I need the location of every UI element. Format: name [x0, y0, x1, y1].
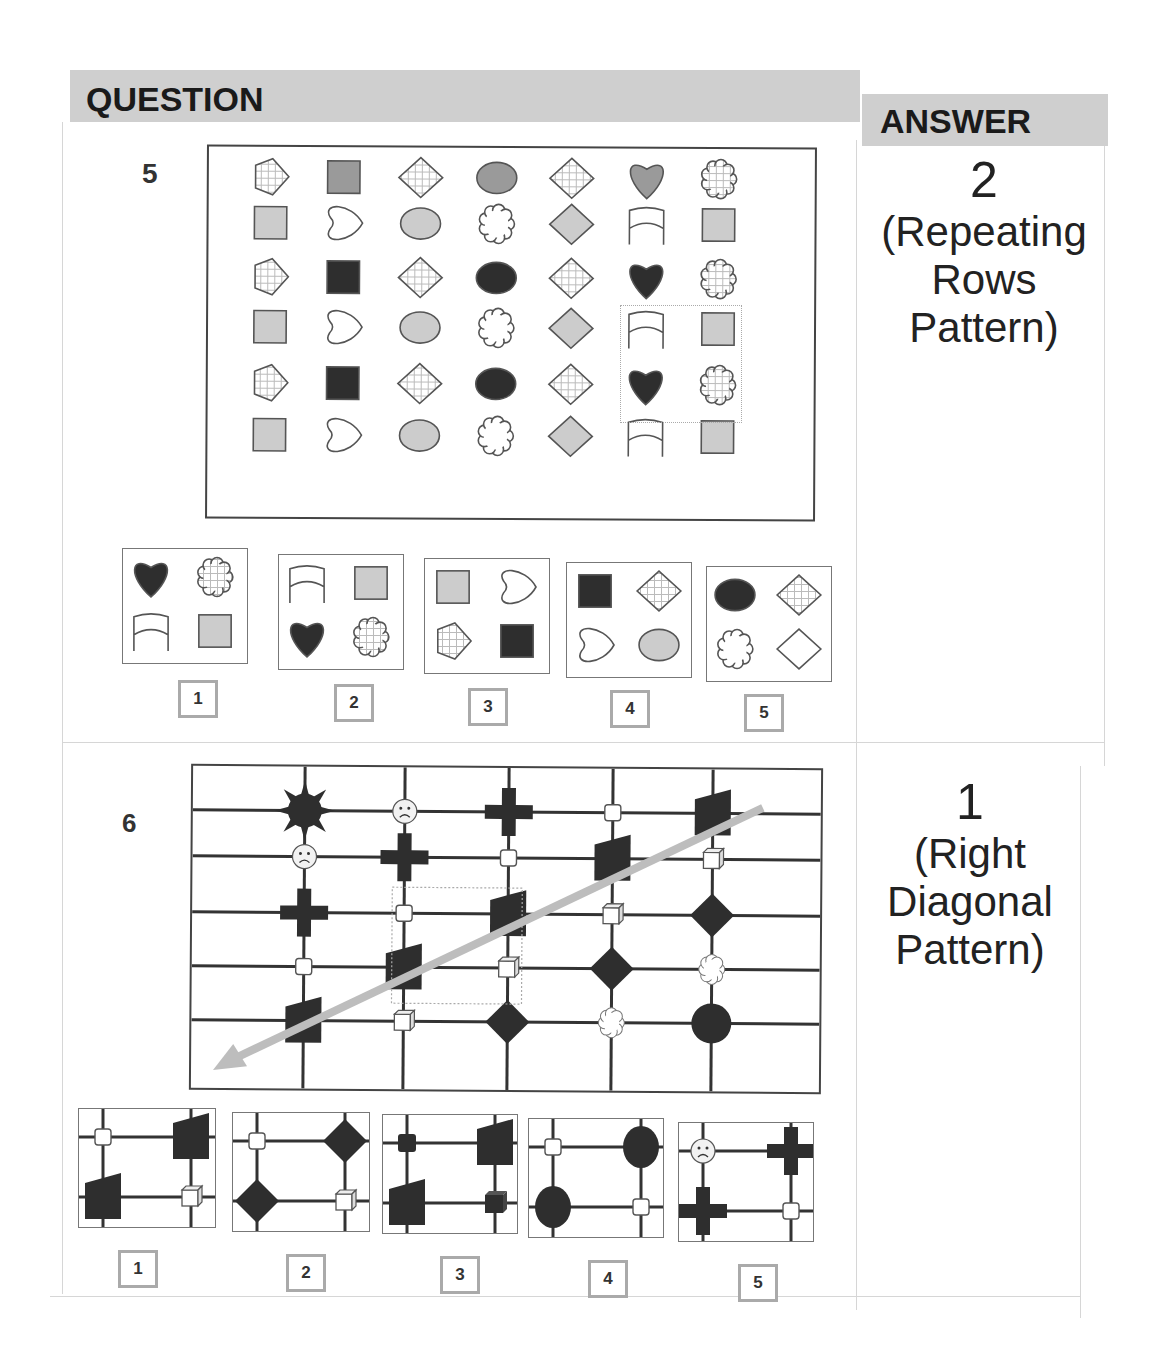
answer-explanation-line: Rows: [866, 256, 1102, 304]
option-symbols: [383, 1115, 517, 1233]
option-shapes: [123, 549, 247, 663]
option-shapes: [425, 559, 549, 673]
option-label-1[interactable]: 1: [118, 1250, 158, 1288]
table-bottom-border: [50, 1296, 1080, 1297]
option-symbols: [529, 1119, 663, 1237]
question-header: QUESTION: [70, 70, 860, 122]
answer-explanation-line: Pattern): [866, 304, 1102, 352]
answer-option-4[interactable]: [528, 1118, 664, 1238]
table-right-border: [1104, 146, 1105, 766]
option-shapes: [279, 555, 403, 669]
option-shapes: [567, 563, 691, 677]
answer-option-2[interactable]: [232, 1112, 370, 1232]
option-symbols: [79, 1109, 215, 1227]
selection-box: [620, 305, 742, 423]
option-label-4[interactable]: 4: [610, 690, 650, 728]
option-label-5[interactable]: 5: [738, 1264, 778, 1302]
answer-header-label: ANSWER: [880, 102, 1031, 141]
option-label-2[interactable]: 2: [334, 684, 374, 722]
answer-option-5[interactable]: [706, 566, 832, 682]
answer-option-1[interactable]: [78, 1108, 216, 1228]
answer-option-5[interactable]: [678, 1122, 814, 1242]
answer-explanation-line: Diagonal: [850, 878, 1090, 926]
answer-explanation-line: (Right: [850, 830, 1090, 878]
answer-option-2[interactable]: [278, 554, 404, 670]
answer-explanation-line: Pattern): [850, 926, 1090, 974]
option-label-5[interactable]: 5: [744, 694, 784, 732]
answer-header: ANSWER: [862, 94, 1108, 146]
question-6-grid: [189, 764, 823, 1094]
option-symbols: [679, 1123, 813, 1241]
answer-option-4[interactable]: [566, 562, 692, 678]
option-label-3[interactable]: 3: [468, 688, 508, 726]
answer-explanation-line: (Repeating: [866, 208, 1102, 256]
table-column-divider: [856, 140, 857, 1310]
option-shapes: [707, 567, 831, 681]
option-label-2[interactable]: 2: [286, 1254, 326, 1292]
answer-5: 2 (Repeating Rows Pattern): [866, 152, 1102, 352]
question-header-label: QUESTION: [86, 80, 264, 119]
answer-value: 1: [850, 774, 1090, 830]
row-divider: [62, 742, 1104, 743]
question-number: 5: [142, 158, 158, 190]
table-left-border: [62, 122, 63, 1294]
answer-option-3[interactable]: [382, 1114, 518, 1234]
answer-6: 1 (Right Diagonal Pattern): [850, 774, 1090, 974]
answer-option-3[interactable]: [424, 558, 550, 674]
answer-value: 2: [866, 152, 1102, 208]
question-number: 6: [122, 808, 136, 839]
option-label-1[interactable]: 1: [178, 680, 218, 718]
answer-option-1[interactable]: [122, 548, 248, 664]
symbol-grid: [191, 766, 821, 1092]
option-label-3[interactable]: 3: [440, 1256, 480, 1294]
option-label-4[interactable]: 4: [588, 1260, 628, 1298]
option-symbols: [233, 1113, 369, 1231]
